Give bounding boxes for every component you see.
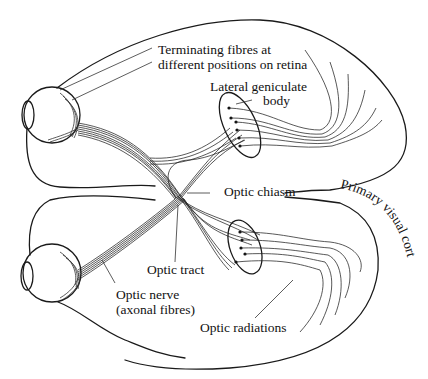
svg-text:Primary visual cortex: Primary visual cortex: [0, 0, 419, 259]
label-primary-visual-cortex: Primary visual cortex: [0, 0, 428, 379]
